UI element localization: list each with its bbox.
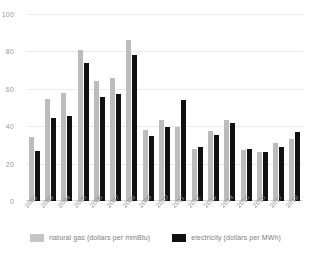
x-tick-cell: 2002 [26, 202, 42, 228]
bar [247, 149, 252, 201]
gray-swatch-icon [30, 234, 44, 242]
bar-group [91, 14, 107, 201]
plot-area: 100 80 60 40 20 0 [26, 14, 303, 201]
legend-entry: natural gas (dollars per mmBtu) [30, 234, 150, 242]
x-tick-cell: 2014 [222, 202, 238, 228]
x-tick-cell: 2010 [156, 202, 172, 228]
y-tick-label-0: 0 [0, 198, 14, 205]
bar [126, 40, 131, 201]
bar [279, 147, 284, 201]
bar [84, 63, 89, 201]
bar [175, 127, 180, 201]
bar [159, 120, 164, 201]
x-tick-cell: 2011 [173, 202, 189, 228]
bar-group [26, 14, 42, 201]
x-tick-cell: 2006 [91, 202, 107, 228]
x-tick-cell: 2007 [107, 202, 123, 228]
bar [208, 131, 213, 201]
bar [263, 152, 268, 201]
bar-group [287, 14, 303, 201]
bar [165, 127, 170, 201]
bar [45, 99, 50, 201]
y-tick-label-60: 60 [0, 86, 14, 93]
x-tick-cell: 2012 [189, 202, 205, 228]
bar [100, 97, 105, 201]
y-tick-label-20: 20 [0, 161, 14, 168]
chart-legend: natural gas (dollars per mmBtu)electrici… [0, 234, 311, 242]
bar-group [189, 14, 205, 201]
y-tick-label-100: 100 [0, 11, 14, 18]
x-tick-cell: 2018 [287, 202, 303, 228]
bar [295, 132, 300, 201]
bar-group [173, 14, 189, 201]
bar-chart: 100 80 60 40 20 0 2002200320042005200620… [0, 0, 311, 254]
bar-group [222, 14, 238, 201]
x-tick-cell: 2005 [75, 202, 91, 228]
x-tick-cell: 2008 [124, 202, 140, 228]
y-tick-label-40: 40 [0, 123, 14, 130]
x-tick-cell: 2009 [140, 202, 156, 228]
bar-groups [26, 14, 303, 201]
bar-group [156, 14, 172, 201]
bar [181, 100, 186, 201]
x-tick-cell: 2004 [59, 202, 75, 228]
bar [35, 151, 40, 201]
bar-group [140, 14, 156, 201]
bar [132, 55, 137, 201]
x-tick-cell: 2016 [254, 202, 270, 228]
bar-group [254, 14, 270, 201]
bar-group [270, 14, 286, 201]
bar [273, 143, 278, 201]
bar-group [75, 14, 91, 201]
bar-group [59, 14, 75, 201]
x-tick-cell: 2017 [270, 202, 286, 228]
bar [143, 130, 148, 201]
bar [116, 94, 121, 201]
bar-group [238, 14, 254, 201]
bar-group [124, 14, 140, 201]
bar [29, 137, 34, 201]
bar [198, 147, 203, 201]
bar-group [42, 14, 58, 201]
legend-label: electricity (dollars per MWh) [191, 234, 281, 242]
bar [224, 120, 229, 201]
bar [149, 136, 154, 201]
x-tick-cell: 2015 [238, 202, 254, 228]
bar-group [107, 14, 123, 201]
black-swatch-icon [172, 234, 186, 242]
bar-group [205, 14, 221, 201]
bar [78, 50, 83, 201]
bar [110, 78, 115, 201]
bar [67, 116, 72, 201]
bar [51, 118, 56, 201]
x-tick-cell: 2013 [205, 202, 221, 228]
y-tick-label-80: 80 [0, 48, 14, 55]
x-tick-cell: 2003 [42, 202, 58, 228]
bar [61, 93, 66, 201]
legend-entry: electricity (dollars per MWh) [172, 234, 281, 242]
bar [94, 81, 99, 201]
legend-label: natural gas (dollars per mmBtu) [49, 234, 150, 242]
bar [289, 139, 294, 201]
x-axis-labels: 2002200320042005200620072008200920102011… [26, 202, 303, 228]
bar [230, 123, 235, 201]
bar [214, 135, 219, 201]
